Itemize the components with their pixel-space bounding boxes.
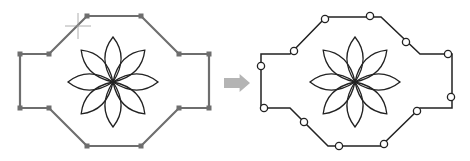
grip-square bbox=[47, 52, 52, 57]
petal bbox=[355, 74, 400, 90]
grip-square bbox=[207, 52, 212, 57]
arrow-shape bbox=[224, 74, 250, 92]
node-circle bbox=[260, 104, 267, 111]
before-panel bbox=[18, 13, 212, 149]
node-circle bbox=[402, 38, 409, 45]
petal bbox=[105, 37, 121, 82]
node-circle bbox=[444, 50, 451, 57]
node-circle bbox=[413, 107, 420, 114]
grip-square bbox=[207, 106, 212, 111]
grip-square bbox=[177, 52, 182, 57]
node-circle bbox=[321, 15, 328, 22]
node-circle bbox=[366, 12, 373, 19]
petal bbox=[347, 37, 363, 82]
grip-square bbox=[85, 144, 90, 149]
node-circle bbox=[257, 62, 264, 69]
node-circle bbox=[300, 118, 307, 125]
petal bbox=[75, 44, 118, 87]
node-circle bbox=[290, 47, 297, 54]
after-panel bbox=[257, 12, 454, 149]
diagram-svg bbox=[0, 0, 470, 161]
petal bbox=[347, 82, 363, 127]
grip-square bbox=[85, 14, 90, 19]
petal bbox=[310, 74, 355, 90]
figure-canvas bbox=[0, 0, 470, 161]
petal bbox=[68, 74, 113, 90]
petal bbox=[105, 82, 121, 127]
grip-square bbox=[177, 106, 182, 111]
petal bbox=[317, 44, 360, 87]
grip-square bbox=[18, 106, 23, 111]
grip-square bbox=[139, 144, 144, 149]
grip-square bbox=[139, 14, 144, 19]
grip-square bbox=[18, 52, 23, 57]
arrow-right-icon bbox=[224, 74, 250, 92]
node-circle bbox=[447, 93, 454, 100]
flower bbox=[310, 37, 400, 127]
node-circle bbox=[335, 142, 342, 149]
flower bbox=[68, 37, 158, 127]
grip-square bbox=[47, 106, 52, 111]
petal bbox=[113, 74, 158, 90]
node-circle bbox=[380, 140, 387, 147]
